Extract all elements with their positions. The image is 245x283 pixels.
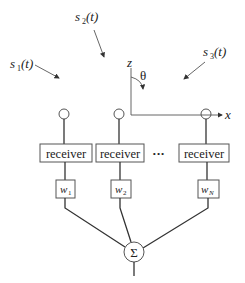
sum-line-1 bbox=[65, 198, 125, 247]
summer: Σ bbox=[124, 242, 144, 276]
source-s1-arg: (t) bbox=[21, 56, 33, 71]
antenna-1 bbox=[59, 109, 69, 144]
source-s1: s 1 (t) bbox=[10, 56, 59, 78]
receiver-3: receiver bbox=[179, 144, 229, 162]
receiver-label: receiver bbox=[46, 147, 87, 161]
sigma-icon: Σ bbox=[130, 245, 138, 260]
weight-1: w 1 bbox=[56, 180, 75, 198]
antenna-2 bbox=[114, 109, 124, 144]
ellipsis: ••• bbox=[153, 149, 165, 159]
weight-n: w N bbox=[198, 180, 219, 198]
antenna-element-icon bbox=[59, 109, 69, 119]
antenna-element-icon bbox=[114, 109, 124, 119]
weight-2: w 2 bbox=[111, 180, 131, 198]
x-axis-label: x bbox=[224, 107, 231, 122]
receiver-2: receiver bbox=[96, 144, 144, 162]
weight-sub: 2 bbox=[123, 189, 127, 197]
weight-sub: N bbox=[208, 189, 214, 197]
source-s2-arrow bbox=[94, 30, 104, 57]
weight-name: w bbox=[60, 183, 68, 195]
receiver-label: receiver bbox=[100, 147, 141, 161]
weight-name: w bbox=[201, 183, 209, 195]
sum-line-n bbox=[143, 198, 208, 248]
z-axis-label: z bbox=[126, 55, 132, 70]
receiver-1: receiver bbox=[40, 144, 92, 162]
source-s3-name: s bbox=[203, 44, 208, 59]
weight-name: w bbox=[115, 183, 123, 195]
beamforming-diagram: s 1 (t) s 2 (t) s 3 (t) z x θ rec bbox=[0, 0, 245, 283]
source-s2: s 2 (t) bbox=[75, 9, 104, 57]
source-s3-arrow bbox=[184, 62, 205, 79]
source-s1-arrow bbox=[35, 65, 59, 78]
source-s2-arg: (t) bbox=[86, 9, 98, 24]
source-s1-name: s bbox=[10, 56, 15, 71]
coordinate-axes: z x θ bbox=[126, 55, 231, 122]
source-s3-arg: (t) bbox=[214, 44, 226, 59]
source-s3: s 3 (t) bbox=[184, 44, 226, 79]
receiver-label: receiver bbox=[184, 147, 225, 161]
antenna-3 bbox=[201, 109, 211, 144]
angle-label: θ bbox=[140, 68, 146, 83]
antenna-element-icon bbox=[201, 109, 211, 119]
source-s2-name: s bbox=[75, 9, 80, 24]
sum-line-2 bbox=[120, 198, 131, 242]
weight-sub: 1 bbox=[68, 189, 72, 197]
